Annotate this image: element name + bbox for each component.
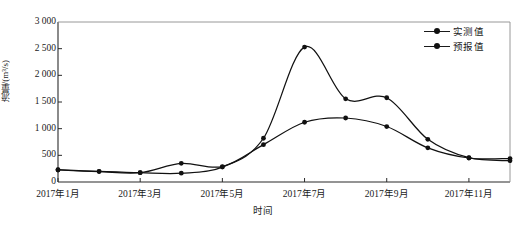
legend-line-marker-icon — [424, 24, 450, 39]
x-tick-label: 2017年11月 — [445, 189, 493, 199]
x-tick-label: 2017年7月 — [283, 189, 327, 199]
legend-label-forecast: 预报值 — [450, 42, 484, 52]
legend-item-forecast: 预报值 — [424, 39, 510, 54]
x-tick-label: 2017年3月 — [118, 189, 162, 199]
x-tick-label: 2017年5月 — [200, 189, 244, 199]
legend-label-measured: 实测值 — [450, 27, 484, 37]
chart-legend: 实测值 预报值 — [424, 24, 510, 54]
legend-item-measured: 实测值 — [424, 24, 510, 39]
legend-line-marker-icon — [424, 39, 450, 54]
flow-rate-line-chart: 流量/(m³/s) 05001 0001 5002 0002 5003 000 … — [0, 0, 526, 235]
x-axis-title: 时间 — [0, 206, 526, 216]
x-tick-label: 2017年1月 — [36, 189, 80, 199]
x-tick-label: 2017年9月 — [365, 189, 409, 199]
figure-caption — [0, 228, 526, 235]
